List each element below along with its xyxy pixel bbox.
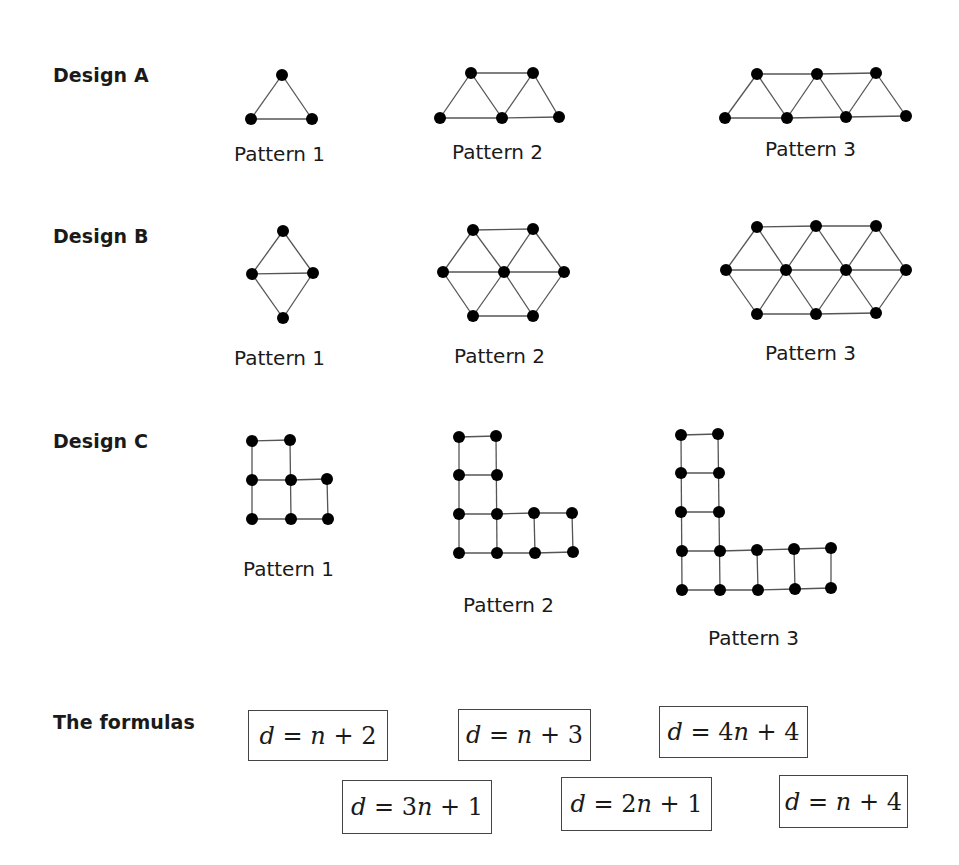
formula-card-1[interactable]: d = n + 2 (248, 710, 388, 761)
design-c-pattern-1-diagram (246, 434, 334, 525)
formula-card-2[interactable]: d = n + 3 (458, 709, 591, 761)
formula-card-6[interactable]: d = n + 4 (779, 775, 908, 828)
design-c-pattern-3-diagram (675, 428, 837, 596)
formula-card-4[interactable]: d = 3n + 1 (342, 780, 492, 834)
design-b-pattern-1-diagram (246, 225, 319, 324)
formula-card-3[interactable]: d = 4n + 4 (659, 706, 808, 758)
design-b-pattern-2-diagram (437, 223, 570, 322)
formula-text: d = n + 4 (785, 788, 902, 816)
formula-text: d = 2n + 1 (570, 790, 702, 818)
formula-text: d = n + 2 (260, 722, 377, 750)
formula-text: d = 4n + 4 (667, 718, 799, 746)
design-b-pattern-3-diagram (720, 220, 912, 320)
design-a-pattern-3-diagram (719, 67, 912, 124)
design-a-pattern-1-diagram (245, 69, 318, 125)
formula-card-5[interactable]: d = 2n + 1 (561, 777, 712, 831)
design-c-pattern-2-diagram (453, 430, 579, 559)
design-a-pattern-2-diagram (434, 67, 565, 124)
formula-text: d = 3n + 1 (351, 793, 483, 821)
formula-text: d = n + 3 (466, 721, 583, 749)
